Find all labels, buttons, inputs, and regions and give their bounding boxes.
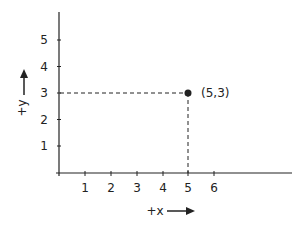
svg-text:4: 4 bbox=[159, 181, 167, 195]
plot-svg: 1 2 3 4 5 6 1 2 3 4 5 (5,3) +x +y bbox=[0, 0, 304, 226]
svg-text:5: 5 bbox=[40, 33, 48, 47]
svg-text:3: 3 bbox=[133, 181, 141, 195]
x-tick-labels: 1 2 3 4 5 6 bbox=[81, 181, 218, 195]
svg-text:2: 2 bbox=[40, 113, 48, 127]
x-axis-label: +x bbox=[146, 204, 163, 218]
svg-text:1: 1 bbox=[81, 181, 89, 195]
data-point bbox=[185, 90, 192, 97]
svg-text:3: 3 bbox=[40, 86, 48, 100]
svg-text:5: 5 bbox=[184, 181, 192, 195]
x-arrow-icon bbox=[167, 207, 195, 215]
point-label: (5,3) bbox=[201, 86, 229, 100]
svg-text:2: 2 bbox=[107, 181, 115, 195]
coordinate-diagram: 1 2 3 4 5 6 1 2 3 4 5 (5,3) +x +y bbox=[0, 0, 304, 226]
svg-text:4: 4 bbox=[40, 60, 48, 74]
y-tick-labels: 1 2 3 4 5 bbox=[40, 33, 48, 153]
svg-text:6: 6 bbox=[210, 181, 218, 195]
svg-text:1: 1 bbox=[40, 139, 48, 153]
y-axis-label: +y bbox=[15, 99, 29, 116]
y-arrow-icon bbox=[20, 69, 28, 95]
